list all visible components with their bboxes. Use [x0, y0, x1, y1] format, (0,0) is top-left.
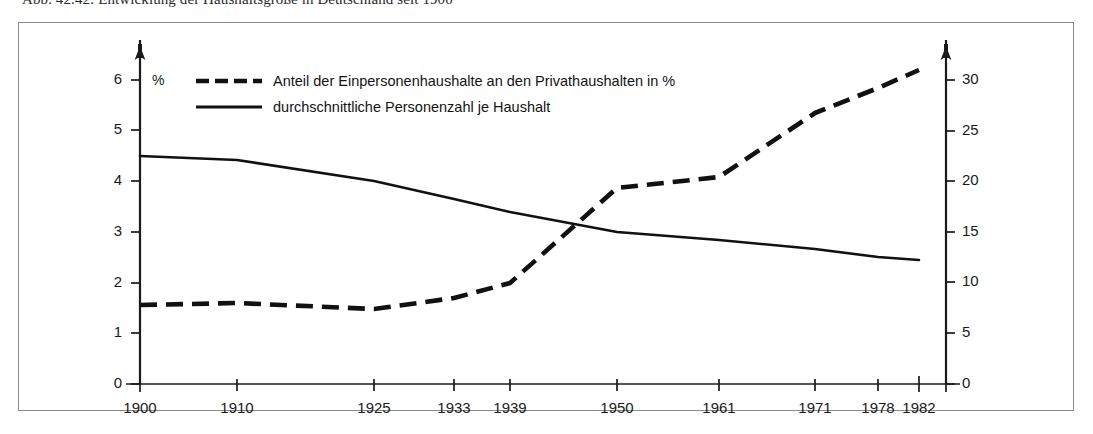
left-axis-unit-label: %: [152, 72, 164, 88]
left-axis-tick-6: 6: [98, 70, 122, 87]
x-axis-tick-1978: 1978: [861, 399, 894, 416]
right-axis-tick-5: 5: [962, 323, 970, 340]
legend-item-einpersonenhaushalte: Anteil der Einpersonenhaushalte an den P…: [196, 68, 675, 94]
x-axis-tick-1925: 1925: [357, 399, 390, 416]
x-axis-tick-1971: 1971: [798, 399, 831, 416]
x-axis-tick-1910: 1910: [220, 399, 253, 416]
right-axis-tick-10: 10: [962, 272, 979, 289]
dashed-line-key-icon: [196, 74, 262, 88]
left-axis: [131, 40, 145, 384]
legend-label-einpersonenhaushalte: Anteil der Einpersonenhaushalte an den P…: [273, 73, 675, 89]
chart-legend: Anteil der Einpersonenhaushalte an den P…: [196, 68, 675, 120]
chart-canvas: [0, 0, 1093, 434]
right-axis-tick-0: 0: [962, 374, 970, 391]
left-axis-tick-2: 2: [98, 273, 122, 290]
legend-label-personenzahl: durchschnittliche Personenzahl je Hausha…: [273, 99, 550, 115]
x-axis-tick-1933: 1933: [437, 399, 470, 416]
right-axis-tick-15: 15: [962, 222, 979, 239]
series-line-personenzahl: [140, 156, 919, 260]
left-axis-tick-5: 5: [98, 120, 122, 137]
x-axis-tick-1961: 1961: [702, 399, 735, 416]
x-axis-tick-1982: 1982: [902, 399, 935, 416]
solid-line-key-icon: [196, 100, 262, 114]
left-axis-tick-4: 4: [98, 171, 122, 188]
left-axis-tick-1: 1: [98, 323, 122, 340]
right-axis-tick-30: 30: [962, 70, 979, 87]
right-axis-tick-20: 20: [962, 171, 979, 188]
x-axis-tick-1939: 1939: [493, 399, 526, 416]
right-axis-tick-25: 25: [962, 121, 979, 138]
left-axis-tick-0: 0: [98, 374, 122, 391]
left-axis-tick-3: 3: [98, 222, 122, 239]
legend-item-personenzahl: durchschnittliche Personenzahl je Hausha…: [196, 94, 675, 120]
x-axis-tick-1950: 1950: [600, 399, 633, 416]
right-axis: [941, 40, 955, 384]
x-axis-tick-1900: 1900: [123, 399, 156, 416]
figure-root: Abb. 42.42: Entwicklung der Haushaltsgrö…: [0, 0, 1093, 434]
x-axis: [126, 376, 960, 392]
